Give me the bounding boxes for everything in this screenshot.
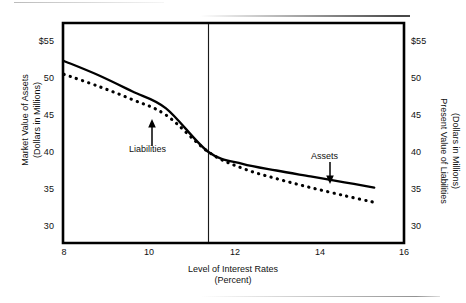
y-axis-right-tick-35: 35 [411,184,437,194]
plot-frame [63,23,404,243]
y-axis-right-tick-45: 45 [411,110,437,120]
y-axis-left-title-line1: Market Value of Assets [20,40,31,200]
y-axis-right-title-line1: Present Value of Liabilities [438,66,449,236]
x-axis-tick-10: 10 [136,247,162,257]
x-axis-title-line1: Level of Interest Rates [153,264,313,275]
annotation-label-assets: Assets [311,151,338,161]
chart-plot-area [0,0,466,303]
x-axis-tick-14: 14 [307,247,333,257]
x-axis-tick-8: 8 [51,247,77,257]
y-axis-right-title-line2: (Dollars in Millions) [450,66,461,236]
series-line-liabilities [64,74,374,202]
series-line-assets [64,61,374,188]
annotation-label-liabilities: Liabilities [129,144,166,154]
y-axis-right-tick-30: 30 [411,221,437,231]
y-axis-left-title-line2: (Dollars in Millions) [32,40,43,200]
x-axis-tick-16: 16 [391,247,417,257]
y-axis-right-tick-50: 50 [411,73,437,83]
y-axis-right-tick-55: $55 [411,36,437,46]
x-axis-title-line2: (Percent) [153,275,313,286]
figure: $55 50 45 40 35 30 $55 50 45 40 35 30 8 … [0,0,466,303]
x-axis-tick-12: 12 [222,247,248,257]
y-axis-left-tick-30: 30 [28,221,54,231]
y-axis-right-tick-40: 40 [411,147,437,157]
annotation-arrow-liabilities [148,119,156,146]
